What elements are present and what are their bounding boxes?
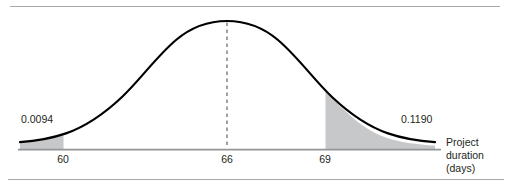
x-axis-title-line2: duration	[446, 149, 484, 162]
x-axis-title: Project duration (days)	[446, 136, 484, 176]
x-tick-label-60: 60	[43, 153, 83, 165]
x-tick-label-69: 69	[305, 153, 345, 165]
x-axis-title-line3: (days)	[446, 162, 484, 175]
x-axis-title-line1: Project	[446, 136, 484, 149]
left-tail-area-label: 0.0094	[21, 113, 53, 125]
figure-container: 60 66 69 0.0094 0.1190 Project duration …	[0, 0, 508, 186]
right-tail-area-label: 0.1190	[401, 113, 432, 125]
x-tick-label-66: 66	[207, 153, 247, 165]
